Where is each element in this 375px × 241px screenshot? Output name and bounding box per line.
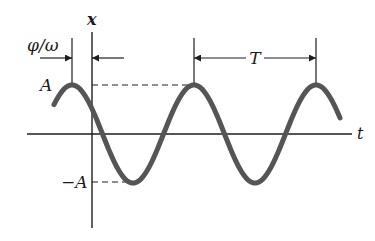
neg-amplitude-label: −A <box>61 172 88 192</box>
t-axis-label: t <box>357 124 364 143</box>
amplitude-label: A <box>38 75 52 95</box>
phase-offset-label: φ/ω <box>27 35 59 55</box>
period-label: T <box>249 48 262 68</box>
x-axis-label: x <box>86 10 97 29</box>
shm-diagram: t x A −A φ/ω T <box>0 0 375 241</box>
